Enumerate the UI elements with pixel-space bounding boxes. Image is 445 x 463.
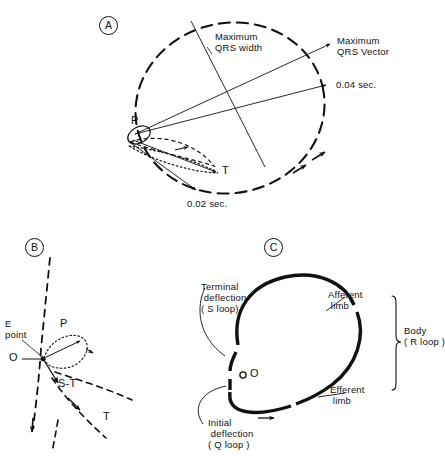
panel-letter-b: B — [25, 238, 44, 257]
label-t-loop-a: T — [222, 165, 229, 176]
label-p-loop-a: P — [131, 115, 139, 126]
label-e-point: E point — [5, 318, 27, 340]
qrs-limb-arrow-b — [32, 418, 33, 432]
label-t-loop-b: T — [103, 411, 110, 422]
label-initial-deflection: Initial deflection ( Q loop ) — [208, 417, 254, 450]
label-004-sec: 0.04 sec. — [336, 79, 376, 90]
label-origin-c: O — [250, 368, 259, 379]
label-efferent-limb: Efferent limb — [330, 384, 365, 406]
label-origin-b: O — [9, 352, 18, 363]
label-body-r-loop: Body ( R loop ) — [404, 325, 445, 347]
label-002-sec: 0.02 sec. — [187, 198, 227, 209]
label-p-loop-b: P — [60, 318, 68, 329]
panel-letter-c: C — [264, 238, 283, 257]
label-terminal-deflection: Terminal deflection ( S loop) — [201, 281, 247, 314]
label-st-segment: S-T — [58, 378, 76, 389]
label-max-qrs-vector: Maximum QRS Vector — [337, 35, 389, 57]
label-max-qrs-width: Maximum QRS width — [215, 31, 262, 53]
panel-letter-a: A — [99, 16, 118, 35]
label-afferent-limb: Afferent limb — [328, 289, 363, 311]
